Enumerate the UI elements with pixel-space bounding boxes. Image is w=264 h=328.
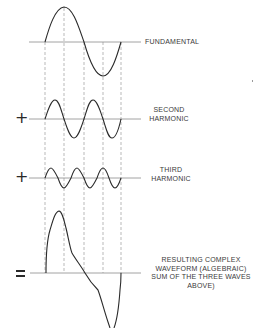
third-harmonic-label-line2: HARMONIC (150, 175, 192, 184)
baselines (29, 42, 141, 273)
result-label-line2: WAVEFORM (ALGEBRAIC) (148, 265, 254, 274)
third-harmonic-label-line1: THIRD (150, 166, 192, 175)
plus-operator-third: + (15, 169, 28, 185)
guide-lines (45, 8, 121, 273)
second-harmonic-label-line1: SECOND (145, 106, 193, 115)
plus-operator-second: + (15, 110, 28, 126)
scan-speck (252, 80, 253, 82)
equals-operator (16, 270, 25, 277)
result-label-line1: RESULTING COMPLEX (148, 256, 254, 265)
third-harmonic-label: THIRD HARMONIC (150, 166, 192, 183)
fundamental-label-text: FUNDAMENTAL (145, 38, 199, 45)
second-harmonic-label-line2: HARMONIC (145, 115, 193, 124)
result-label-line4: ABOVE) (148, 282, 254, 291)
resulting-waveform (46, 211, 121, 328)
fundamental-label: FUNDAMENTAL (145, 38, 199, 47)
fundamental-wave (45, 7, 121, 76)
second-harmonic-label: SECOND HARMONIC (145, 106, 193, 123)
result-label-line3: SUM OF THE THREE WAVES (148, 273, 254, 282)
resulting-waveform-label: RESULTING COMPLEX WAVEFORM (ALGEBRAIC) S… (148, 256, 254, 290)
